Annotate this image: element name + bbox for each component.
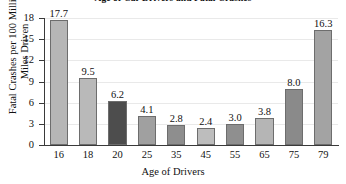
- chart-title: Age of Car Drivers and Fatal Crashes: [0, 0, 346, 3]
- x-axis-line: [44, 145, 339, 146]
- bar[interactable]: [167, 125, 185, 145]
- bar-value-label: 6.2: [111, 89, 124, 100]
- bar-value-label: 16.3: [314, 18, 332, 29]
- bar[interactable]: [226, 124, 244, 145]
- bar-group[interactable]: 6.2: [108, 18, 126, 145]
- bar[interactable]: [314, 30, 332, 145]
- x-tick-label: 16: [44, 149, 73, 160]
- bar-chart-figure: Age of Car Drivers and Fatal Crashes Fat…: [0, 0, 346, 184]
- x-tick-label: 18: [73, 149, 102, 160]
- x-axis-title: Age of Drivers: [0, 166, 346, 177]
- y-tick-label: 15: [12, 34, 34, 44]
- bar[interactable]: [285, 89, 303, 145]
- bar-group[interactable]: 3.8: [255, 18, 273, 145]
- x-tick-label: 25: [132, 149, 161, 160]
- bar[interactable]: [79, 78, 97, 145]
- x-tick-label: 65: [250, 149, 279, 160]
- y-tick-label: 6: [12, 98, 34, 108]
- bar-group[interactable]: 3.0: [226, 18, 244, 145]
- x-tick-label: 55: [220, 149, 249, 160]
- bar-group[interactable]: 9.5: [79, 18, 97, 145]
- bar-value-label: 8.0: [287, 77, 300, 88]
- bar-group[interactable]: 2.8: [167, 18, 185, 145]
- bar-value-label: 3.8: [258, 106, 271, 117]
- bar-group[interactable]: 8.0: [285, 18, 303, 145]
- x-tick-label: 79: [309, 149, 338, 160]
- bar[interactable]: [108, 101, 126, 145]
- bar[interactable]: [138, 116, 156, 145]
- bar-value-label: 2.8: [170, 113, 183, 124]
- y-tick-label: 3: [12, 119, 34, 129]
- bar-group[interactable]: 2.4: [197, 18, 215, 145]
- bar-group[interactable]: 16.3: [314, 18, 332, 145]
- x-tick-label: 45: [191, 149, 220, 160]
- bar[interactable]: [255, 118, 273, 145]
- y-tick-label: 12: [12, 55, 34, 65]
- x-tick-label: 20: [103, 149, 132, 160]
- bar-group[interactable]: 17.7: [50, 18, 68, 145]
- bar-value-label: 4.1: [140, 104, 153, 115]
- bar-value-label: 17.7: [50, 8, 68, 19]
- bar-value-label: 2.4: [199, 116, 212, 127]
- bar[interactable]: [50, 20, 68, 145]
- bar-value-label: 9.5: [82, 66, 95, 77]
- bar-value-label: 3.0: [229, 112, 242, 123]
- bar[interactable]: [197, 128, 215, 145]
- y-tick-label: 0: [12, 140, 34, 150]
- plot-area: 17.79.56.24.12.82.43.03.88.016.3: [44, 18, 338, 145]
- x-tick-label: 35: [162, 149, 191, 160]
- y-tick-label: 9: [12, 77, 34, 87]
- x-tick-label: 75: [279, 149, 308, 160]
- bar-group[interactable]: 4.1: [138, 18, 156, 145]
- y-tick-label: 18: [12, 13, 34, 23]
